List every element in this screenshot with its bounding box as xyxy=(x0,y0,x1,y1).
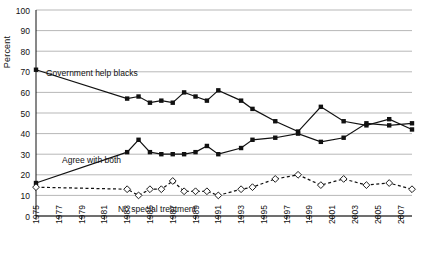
data-point xyxy=(136,138,140,142)
data-point xyxy=(295,171,302,178)
data-point xyxy=(124,186,131,193)
series-annotation-0: Government help blacks xyxy=(46,68,138,78)
data-point xyxy=(182,152,186,156)
data-point xyxy=(171,152,175,156)
x-tick-label: 1997 xyxy=(282,205,292,224)
data-point xyxy=(364,121,368,125)
line-chart: Percent 01020304050607080901001975197719… xyxy=(0,0,422,272)
y-tick-label: 90 xyxy=(21,26,31,36)
y-tick-label: 10 xyxy=(21,191,31,201)
y-tick-label: 20 xyxy=(21,170,31,180)
x-tick-label: 1993 xyxy=(236,205,246,224)
data-point xyxy=(205,144,209,148)
data-point xyxy=(215,192,222,199)
plot-area: 0102030405060708090100197519771979198119… xyxy=(0,0,422,272)
data-point xyxy=(193,94,197,98)
y-tick-label: 30 xyxy=(21,150,31,160)
data-point xyxy=(204,188,211,195)
data-point xyxy=(410,127,414,131)
data-point xyxy=(205,98,209,102)
data-point xyxy=(272,176,279,183)
data-point xyxy=(182,90,186,94)
data-point xyxy=(249,184,256,191)
x-tick-label: 1975 xyxy=(31,205,41,224)
y-tick-label: 60 xyxy=(21,88,31,98)
data-point xyxy=(34,68,38,72)
data-point xyxy=(363,182,370,189)
data-point xyxy=(216,152,220,156)
data-point xyxy=(341,136,345,140)
data-point xyxy=(193,150,197,154)
x-tick-label: 1981 xyxy=(99,205,109,224)
y-tick-label: 40 xyxy=(21,129,31,139)
data-point xyxy=(386,180,393,187)
y-tick-label: 0 xyxy=(25,212,30,222)
data-point xyxy=(239,146,243,150)
data-point xyxy=(171,101,175,105)
data-point xyxy=(296,131,300,135)
y-tick-label: 70 xyxy=(21,67,31,77)
x-tick-label: 2003 xyxy=(350,205,360,224)
data-point xyxy=(159,152,163,156)
data-point xyxy=(340,176,347,183)
y-tick-label: 80 xyxy=(21,47,31,57)
data-point xyxy=(33,184,40,191)
data-point xyxy=(148,150,152,154)
x-tick-label: 1999 xyxy=(304,205,314,224)
x-tick-label: 1995 xyxy=(259,205,269,224)
data-point xyxy=(136,94,140,98)
data-point xyxy=(273,119,277,123)
data-point xyxy=(192,188,199,195)
data-point xyxy=(273,136,277,140)
series-annotation-2: No special treatment xyxy=(118,204,197,214)
data-point xyxy=(125,96,129,100)
data-point xyxy=(319,140,323,144)
data-point xyxy=(250,138,254,142)
data-point xyxy=(387,123,391,127)
series-line-0 xyxy=(36,70,412,132)
data-point xyxy=(135,192,142,199)
x-tick-label: 2007 xyxy=(396,205,406,224)
data-point xyxy=(341,119,345,123)
data-point xyxy=(319,105,323,109)
data-point xyxy=(158,186,165,193)
data-point xyxy=(239,98,243,102)
series-annotation-1: Agree with both xyxy=(62,155,121,165)
y-tick-label: 100 xyxy=(16,6,30,16)
y-tick-label: 50 xyxy=(21,109,31,119)
data-point xyxy=(317,182,324,189)
data-point xyxy=(125,150,129,154)
x-tick-label: 1977 xyxy=(54,205,64,224)
data-point xyxy=(409,186,416,193)
x-tick-label: 1979 xyxy=(77,205,87,224)
data-point xyxy=(250,107,254,111)
data-point xyxy=(147,186,154,193)
data-point xyxy=(238,186,245,193)
data-point xyxy=(216,88,220,92)
x-tick-label: 2001 xyxy=(327,205,337,224)
data-point xyxy=(159,98,163,102)
data-point xyxy=(148,101,152,105)
x-tick-label: 2005 xyxy=(373,205,383,224)
data-point xyxy=(387,117,391,121)
series-line-1 xyxy=(36,123,412,183)
series-line-2 xyxy=(36,175,412,196)
x-tick-label: 1991 xyxy=(213,205,223,224)
data-point xyxy=(410,121,414,125)
